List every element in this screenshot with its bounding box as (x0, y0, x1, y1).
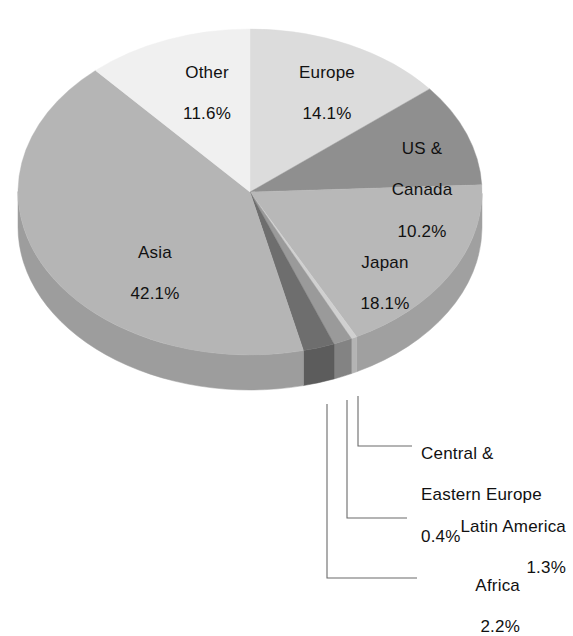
slice-label-us-canada-name: US & (363, 139, 481, 160)
slice-label-japan-value: 18.1% (330, 294, 440, 315)
slice-label-other-name: Other (152, 63, 262, 84)
callout-africa-value: 2.2% (400, 617, 520, 636)
pie-side-latin-america (334, 339, 351, 379)
slice-label-asia-value: 42.1% (100, 284, 210, 305)
pie-side-africa (303, 344, 334, 386)
slice-label-asia-name: Asia (100, 243, 210, 264)
callout-cee-name: Central & (421, 444, 573, 465)
leader-line-central-eastern-europe (358, 396, 412, 446)
slice-label-japan-name: Japan (330, 253, 440, 274)
slice-label-japan: Japan 18.1% (330, 232, 440, 336)
slice-label-europe-name: Europe (272, 63, 382, 84)
callout-label-africa: Africa 2.2% (400, 555, 520, 636)
slice-label-us-canada-name2: Canada (363, 180, 481, 201)
callout-latin-america-name: Latin America (400, 517, 566, 538)
slice-label-asia: Asia 42.1% (100, 222, 210, 326)
pie-side-central-eastern-europe (351, 337, 356, 374)
callout-africa-name: Africa (400, 576, 520, 597)
slice-label-other: Other 11.6% (152, 42, 262, 146)
leader-line-latin-america (347, 400, 407, 518)
slice-label-other-value: 11.6% (152, 104, 262, 125)
